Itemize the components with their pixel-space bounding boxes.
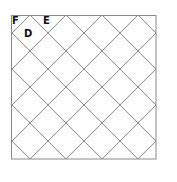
label-f: F xyxy=(12,15,19,26)
diagonal-grid-diagram: F E D xyxy=(0,0,177,182)
label-e: E xyxy=(43,15,50,26)
square-border xyxy=(12,16,157,160)
label-d: D xyxy=(24,28,32,39)
